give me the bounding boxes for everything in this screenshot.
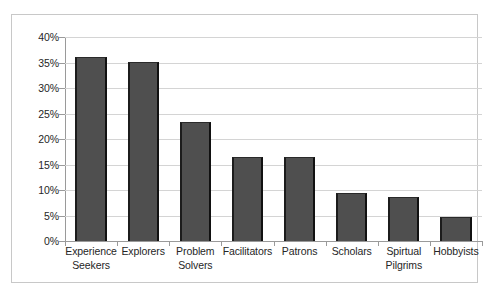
x-axis-tick-mark — [117, 241, 118, 246]
y-axis-tick-label: 25% — [38, 108, 59, 120]
bar-slot — [378, 37, 430, 241]
y-axis-tick-mark — [59, 63, 65, 64]
bar-slot — [430, 37, 482, 241]
y-axis-tick-mark — [59, 139, 65, 140]
bar-slot — [221, 37, 273, 241]
x-axis-tick-label-line: Experience — [65, 245, 117, 259]
bar[interactable] — [440, 217, 471, 241]
x-axis-tick-label-line: Solvers — [169, 259, 221, 273]
x-axis-tick-mark — [482, 241, 483, 246]
bar-slot — [326, 37, 378, 241]
bar[interactable] — [128, 62, 159, 241]
x-axis-tick-label: Explorers — [117, 245, 169, 259]
x-axis-tick-label-line: Facilitators — [221, 245, 273, 259]
x-axis-tick-label-line: Seekers — [65, 259, 117, 273]
y-axis-tick-mark — [59, 37, 65, 38]
y-axis-tick-label: 20% — [38, 133, 59, 145]
x-axis-tick-label: Hobbyists — [430, 245, 482, 259]
bar-slot — [274, 37, 326, 241]
x-axis-tick-mark — [65, 241, 66, 246]
bar[interactable] — [180, 122, 211, 241]
y-axis-tick-mark — [59, 114, 65, 115]
y-axis-labels: 0%5%10%15%20%25%30%35%40% — [12, 15, 59, 263]
y-axis-tick-label: 30% — [38, 82, 59, 94]
y-axis-tick-label: 15% — [38, 159, 59, 171]
plot-area — [65, 37, 482, 241]
x-axis-tick-label: SpirtualPilgrims — [378, 245, 430, 272]
x-axis-tick-mark — [326, 241, 327, 246]
x-axis-tick-label-line: Pilgrims — [378, 259, 430, 273]
x-axis-tick-label: ExperienceSeekers — [65, 245, 117, 272]
x-axis-tick-label-line: Problem — [169, 245, 221, 259]
x-axis-tick-label: ProblemSolvers — [169, 245, 221, 272]
x-axis-tick-mark — [430, 241, 431, 246]
y-axis-tick-mark — [59, 190, 65, 191]
bar[interactable] — [75, 57, 106, 241]
x-axis-tick-label-line: Patrons — [274, 245, 326, 259]
bar-slot — [65, 37, 117, 241]
chart-frame: 0%5%10%15%20%25%30%35%40% ExperienceSeek… — [11, 14, 478, 283]
y-axis-tick-mark — [59, 88, 65, 89]
y-axis-tick-label: 10% — [38, 184, 59, 196]
bar[interactable] — [388, 197, 419, 241]
y-axis-tick-mark — [59, 216, 65, 217]
x-axis-tick-mark — [169, 241, 170, 246]
x-axis-tick-label-line: Scholars — [326, 245, 378, 259]
x-axis-tick-mark — [378, 241, 379, 246]
x-axis-tick-label-line: Hobbyists — [430, 245, 482, 259]
y-axis-tick-mark — [59, 165, 65, 166]
x-axis-tick-label-line: Spirtual — [378, 245, 430, 259]
x-axis-tick-label: Scholars — [326, 245, 378, 259]
y-axis-tick-label: 35% — [38, 57, 59, 69]
bar[interactable] — [284, 157, 315, 241]
bar-slot — [117, 37, 169, 241]
y-axis-tick-label: 40% — [38, 31, 59, 43]
x-axis-tick-label-line: Explorers — [117, 245, 169, 259]
x-axis-tick-mark — [274, 241, 275, 246]
bar-slot — [169, 37, 221, 241]
x-axis-tick-label: Patrons — [274, 245, 326, 259]
x-axis-tick-mark — [221, 241, 222, 246]
bar[interactable] — [336, 193, 367, 241]
y-axis-tick-label: 0% — [44, 235, 59, 247]
x-axis-labels: ExperienceSeekersExplorersProblemSolvers… — [65, 245, 482, 291]
bar[interactable] — [232, 157, 263, 241]
y-axis-tick-label: 5% — [44, 210, 59, 222]
x-axis-tick-label: Facilitators — [221, 245, 273, 259]
